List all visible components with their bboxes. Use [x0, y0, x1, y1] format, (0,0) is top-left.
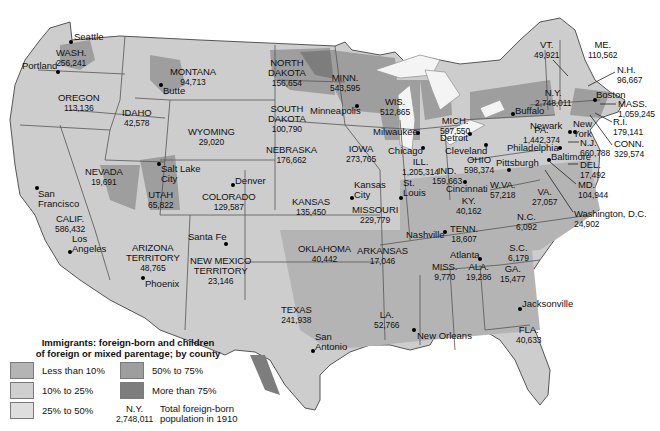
state-label-ga: GA.15,477 [500, 264, 525, 284]
state-label-south-dakota: SOUTHDAKOTA100,790 [268, 104, 306, 134]
city-dot-pittsburgh [507, 168, 511, 172]
state-label-miss: MISS.9,770 [432, 262, 457, 282]
legend-swatch [120, 382, 144, 399]
state-label-va: VA.27,057 [532, 187, 557, 207]
state-label-ohio: OHIO598,374 [464, 155, 494, 175]
state-label-calif: CALIF.586,432 [55, 214, 85, 234]
city-salt-lake-city: Salt LakeCity [161, 164, 201, 184]
city-boston: Boston [596, 90, 626, 100]
state-label-me: ME.110,562 [588, 40, 617, 60]
state-label-minn: MINN.543,595 [330, 73, 360, 93]
state-label-sc: S.C.6,179 [508, 243, 529, 263]
state-label-nc: N.C.6,092 [516, 212, 537, 232]
city-phoenix: Phoenix [145, 279, 179, 289]
state-label-arizona: ARIZONATERRITORY48,765 [126, 243, 180, 273]
state-label-texas: TEXAS241,938 [281, 305, 312, 325]
legend-item-10-25: 10% to 25% [10, 382, 93, 399]
state-label-wash: WASH.256,241 [56, 48, 86, 68]
state-label-dc: Washington, D.C.24,902 [574, 209, 647, 229]
legend-item-50-75: 50% to 75% [120, 362, 203, 379]
city-dot-new-orleans [412, 328, 416, 332]
state-label-ky: KY.40,162 [456, 196, 481, 216]
city-dot-detroit [468, 132, 472, 136]
city-pittsburgh: Pittsburgh [496, 158, 539, 168]
city-los-angeles: LosAngeles [72, 234, 106, 254]
state-label-wyoming: WYOMING29,020 [188, 127, 235, 147]
city-portland: Portland [22, 61, 57, 71]
state-label-new-mexico: NEW MEXICOTERRITORY23,146 [190, 256, 251, 286]
city-minneapolis: Minneapolis [310, 106, 361, 116]
state-label-del: DEL.17,492 [580, 160, 605, 180]
state-label-wis: WIS.512,865 [380, 97, 410, 117]
state-label-montana: MONTANA94,713 [170, 67, 216, 87]
city-cincinnati: Cincinnati [446, 184, 488, 194]
city-dot-santa-fe [224, 242, 228, 246]
legend-example-desc: Total foreign-born population in 1910 [160, 404, 238, 424]
state-label-conn: CONN.329,574 [614, 139, 644, 159]
state-label-nebraska: NEBRASKA176,662 [266, 145, 317, 165]
legend-swatch [10, 382, 34, 399]
city-detroit: Detroit [440, 133, 468, 143]
state-label-iowa: IOWA273,765 [346, 144, 376, 164]
state-label-fla: FLA.40,633 [516, 325, 541, 345]
legend-swatch [10, 362, 34, 379]
city-newark: Newark [530, 121, 562, 131]
city-jacksonville: Jacksonville [522, 299, 573, 309]
city-atlanta: Atlanta [450, 250, 480, 260]
legend-example-key: N.Y. 2,748,011 [116, 404, 153, 424]
legend-item-25-50: 25% to 50% [10, 402, 93, 419]
state-label-nevada: NEVADA19,691 [85, 167, 123, 187]
city-seattle: Seattle [74, 32, 104, 42]
state-label-ri: R.I.179,141 [613, 117, 643, 137]
state-label-oklahoma: OKLAHOMA40,442 [298, 244, 351, 264]
legend-title: Immigrants: foreign-born and children of… [18, 337, 238, 359]
city-nashville: Nashville [406, 230, 445, 240]
state-label-md: MD.104,944 [578, 180, 608, 200]
state-label-tenn: TENN.18,607 [450, 224, 478, 244]
state-label-kansas: KANSAS135,450 [292, 197, 330, 217]
state-label-oregon: OREGON113,136 [58, 93, 100, 113]
state-label-wva: W.VA.57,218 [490, 180, 515, 200]
city-chicago: Chicago [388, 146, 423, 156]
state-label-idaho: IDAHO42,578 [122, 108, 152, 128]
state-label-missouri: MISSOURI229,779 [352, 205, 398, 225]
city-baltimore: Baltimore [551, 152, 591, 162]
map-legend: Immigrants: foreign-born and children of… [10, 337, 250, 359]
state-label-vt: VT.49,921 [534, 40, 559, 60]
state-label-nh: N.H.96,667 [617, 65, 642, 85]
legend-swatch [120, 362, 144, 379]
legend-item-more-75: More than 75% [120, 382, 216, 399]
city-san-antonio: SanAntonio [315, 332, 347, 352]
state-label-north-dakota: NORTHDAKOTA156,654 [268, 58, 306, 88]
legend-item-less-10: Less than 10% [10, 362, 105, 379]
city-new-orleans: New Orleans [417, 331, 472, 341]
city-dot-seattle [69, 40, 73, 44]
state-label-colorado: COLORADO129,587 [202, 192, 256, 212]
state-label-arkansas: ARKANSAS17,046 [357, 246, 408, 266]
legend-swatch [10, 402, 34, 419]
city-buffalo: Buffalo [515, 106, 544, 116]
city-st-louis: St.Louis [403, 178, 426, 198]
city-new-york: NewYork [573, 119, 592, 139]
city-denver: Denver [235, 176, 266, 186]
city-santa-fe: Santa Fe [188, 232, 227, 242]
state-label-ala: ALA.19,286 [466, 262, 491, 282]
state-label-la: LA.52,766 [374, 310, 399, 330]
city-cleveland: Cleveland [445, 146, 487, 156]
city-milwaukee: Milwaukee [373, 127, 418, 137]
city-kansas-city: KansasCity [354, 180, 386, 200]
state-label-utah: UTAH65,822 [148, 190, 173, 210]
city-butte: Butte [163, 86, 185, 96]
city-san-francisco: SanFrancisco [38, 189, 79, 209]
city-dot-newark [568, 130, 572, 134]
